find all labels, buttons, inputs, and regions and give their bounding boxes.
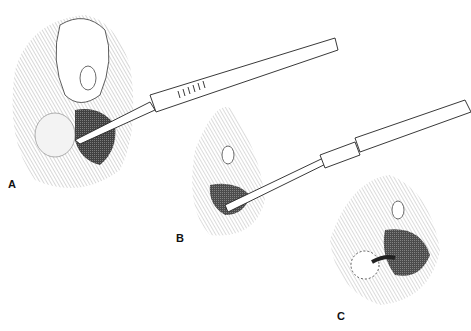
panel-label-c: C xyxy=(337,310,345,322)
panel-label-b: B xyxy=(176,232,184,244)
panel-label-a: A xyxy=(8,178,16,190)
syringe-catheter xyxy=(225,100,471,212)
panel-b-anatomy xyxy=(192,107,265,236)
illustration: A B C xyxy=(0,0,471,331)
panel-a-anatomy xyxy=(13,15,134,188)
panel-c-anatomy xyxy=(330,175,440,305)
line-drawing xyxy=(0,0,471,331)
